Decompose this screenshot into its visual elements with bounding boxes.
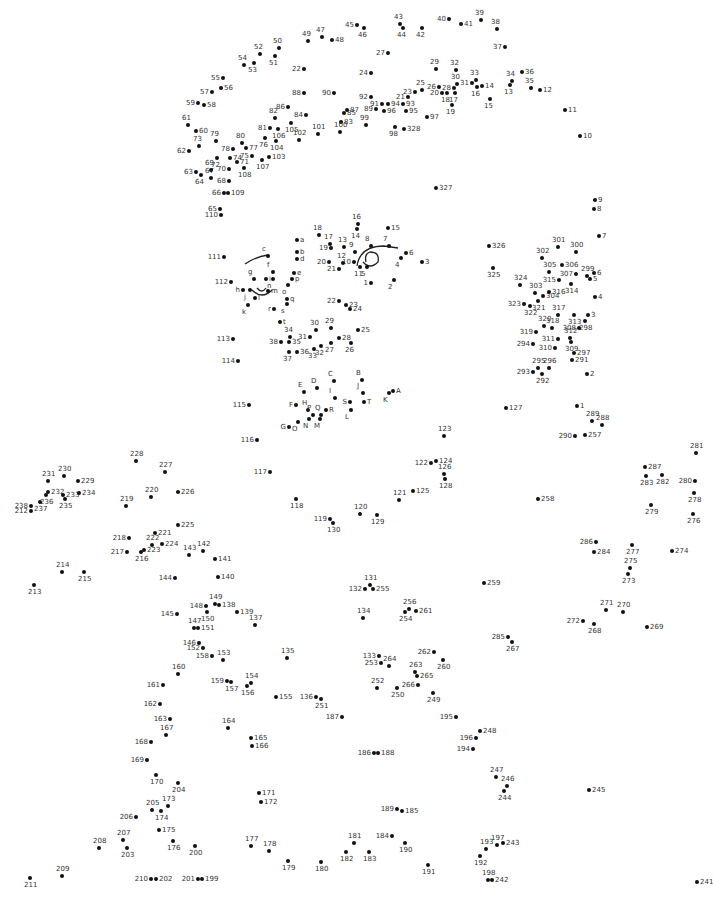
dot-marker[interactable] xyxy=(506,635,510,639)
dot-marker[interactable] xyxy=(528,304,532,308)
dot-marker[interactable] xyxy=(556,337,560,341)
dot-marker[interactable] xyxy=(308,335,312,339)
dot-marker[interactable] xyxy=(391,389,395,393)
dot-marker[interactable] xyxy=(387,244,391,248)
dot-marker[interactable] xyxy=(231,337,235,341)
dot-marker[interactable] xyxy=(219,86,223,90)
dot-marker[interactable] xyxy=(585,372,589,376)
dot-marker[interactable] xyxy=(319,697,323,701)
dot-marker[interactable] xyxy=(277,46,281,50)
dot-marker[interactable] xyxy=(593,198,597,202)
dot-marker[interactable] xyxy=(306,39,310,43)
dot-marker[interactable] xyxy=(274,695,278,699)
dot-marker[interactable] xyxy=(200,877,204,881)
dot-marker[interactable] xyxy=(390,834,394,838)
dot-marker[interactable] xyxy=(644,474,648,478)
dot-marker[interactable] xyxy=(226,191,230,195)
dot-marker[interactable] xyxy=(187,553,191,557)
dot-marker[interactable] xyxy=(228,156,232,160)
dot-marker[interactable] xyxy=(194,170,198,174)
dot-marker[interactable] xyxy=(263,136,267,140)
dot-marker[interactable] xyxy=(290,277,294,281)
dot-marker[interactable] xyxy=(572,313,576,317)
dot-marker[interactable] xyxy=(529,86,533,90)
dot-marker[interactable] xyxy=(478,729,482,733)
dot-marker[interactable] xyxy=(324,408,328,412)
dot-marker[interactable] xyxy=(362,26,366,30)
dot-marker[interactable] xyxy=(149,495,153,499)
dot-marker[interactable] xyxy=(196,101,200,105)
dot-marker[interactable] xyxy=(649,503,653,507)
dot-marker[interactable] xyxy=(344,303,348,307)
dot-marker[interactable] xyxy=(279,340,283,344)
dot-marker[interactable] xyxy=(314,328,318,332)
dot-marker[interactable] xyxy=(124,504,128,508)
dot-marker[interactable] xyxy=(286,105,290,109)
dot-marker[interactable] xyxy=(628,566,632,570)
dot-marker[interactable] xyxy=(442,434,446,438)
dot-marker[interactable] xyxy=(264,277,268,281)
dot-marker[interactable] xyxy=(454,715,458,719)
dot-marker[interactable] xyxy=(540,256,544,260)
dot-marker[interactable] xyxy=(450,103,454,107)
dot-marker[interactable] xyxy=(587,788,591,792)
dot-marker[interactable] xyxy=(77,491,81,495)
dot-marker[interactable] xyxy=(229,680,233,684)
dot-marker[interactable] xyxy=(416,683,420,687)
dot-marker[interactable] xyxy=(502,789,506,793)
dot-marker[interactable] xyxy=(222,255,226,259)
dot-marker[interactable] xyxy=(311,413,315,417)
dot-marker[interactable] xyxy=(425,115,429,119)
dot-marker[interactable] xyxy=(420,26,424,30)
dot-marker[interactable] xyxy=(478,854,482,858)
dot-marker[interactable] xyxy=(471,747,475,751)
dot-marker[interactable] xyxy=(267,155,271,159)
dot-marker[interactable] xyxy=(542,324,546,328)
dot-marker[interactable] xyxy=(355,23,359,27)
dot-marker[interactable] xyxy=(386,226,390,230)
dot-marker[interactable] xyxy=(534,330,538,334)
dot-marker[interactable] xyxy=(630,543,634,547)
dot-marker[interactable] xyxy=(547,290,551,294)
dot-marker[interactable] xyxy=(531,370,535,374)
dot-marker[interactable] xyxy=(338,130,342,134)
dot-marker[interactable] xyxy=(210,90,214,94)
dot-marker[interactable] xyxy=(577,326,581,330)
dot-marker[interactable] xyxy=(447,17,451,21)
dot-marker[interactable] xyxy=(414,609,418,613)
dot-marker[interactable] xyxy=(259,800,263,804)
dot-marker[interactable] xyxy=(171,839,175,843)
dot-marker[interactable] xyxy=(570,358,574,362)
dot-marker[interactable] xyxy=(193,844,197,848)
dot-marker[interactable] xyxy=(257,791,261,795)
dot-marker[interactable] xyxy=(240,141,244,145)
dot-marker[interactable] xyxy=(387,664,391,668)
dot-marker[interactable] xyxy=(294,497,298,501)
dot-marker[interactable] xyxy=(242,63,246,67)
dot-marker[interactable] xyxy=(459,22,463,26)
dot-marker[interactable] xyxy=(217,603,221,607)
dot-marker[interactable] xyxy=(369,71,373,75)
dot-marker[interactable] xyxy=(600,423,604,427)
dot-marker[interactable] xyxy=(538,88,542,92)
dot-marker[interactable] xyxy=(125,550,129,554)
dot-marker[interactable] xyxy=(402,127,406,131)
dot-marker[interactable] xyxy=(592,550,596,554)
dot-marker[interactable] xyxy=(244,146,248,150)
dot-marker[interactable] xyxy=(161,683,165,687)
dot-marker[interactable] xyxy=(187,149,191,153)
dot-marker[interactable] xyxy=(557,278,561,282)
dot-marker[interactable] xyxy=(60,570,64,574)
dot-marker[interactable] xyxy=(518,283,522,287)
dot-marker[interactable] xyxy=(420,88,424,92)
dot-marker[interactable] xyxy=(349,408,353,412)
dot-marker[interactable] xyxy=(149,740,153,744)
dot-marker[interactable] xyxy=(380,102,384,106)
dot-marker[interactable] xyxy=(227,179,231,183)
dot-marker[interactable] xyxy=(437,85,441,89)
dot-marker[interactable] xyxy=(121,838,125,842)
dot-marker[interactable] xyxy=(289,121,293,125)
dot-marker[interactable] xyxy=(218,207,222,211)
dot-marker[interactable] xyxy=(470,81,474,85)
dot-marker[interactable] xyxy=(369,244,373,248)
